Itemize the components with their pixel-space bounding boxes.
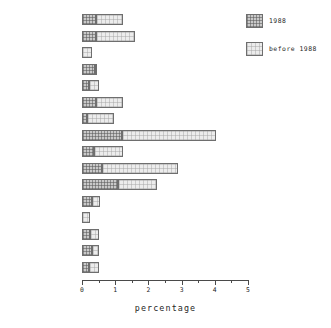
stacked-bar [82,80,99,91]
stacked-bar [82,212,90,223]
x-tick-label: 4 [206,286,224,295]
stacked-bar [82,245,99,256]
bar-segment-recent [82,229,90,240]
bar-segment-recent [82,196,92,207]
stacked-bar [82,113,114,124]
bar-segment-recent [82,146,94,157]
x-tick-minor [231,280,232,283]
x-tick-label: 3 [173,286,191,295]
bar-segment-recent [82,64,95,75]
stacked-bar [82,229,99,240]
stacked-bar [82,163,178,174]
bar-segment-recent [82,97,96,108]
x-tick-major [215,280,216,285]
stacked-bar [82,130,216,141]
bar-segment-recent [82,80,89,91]
bar-segment-older [122,130,217,141]
bar-chart: TOTALEUROPEENGLAND & WALESSCOTLANDN. IRE… [0,0,331,328]
plot-area: TOTALEUROPEENGLAND & WALESSCOTLANDN. IRE… [82,14,248,278]
bar-segment-older [94,146,124,157]
bar-segment-older [87,113,114,124]
stacked-bar [82,146,123,157]
x-tick-minor [99,280,100,283]
stacked-bar [82,262,99,273]
x-tick-minor [198,280,199,283]
x-tick-label: 2 [139,286,157,295]
stacked-bar [82,14,123,25]
bar-segment-recent [82,163,102,174]
bar-segment-older [90,229,98,240]
bar-segment-older [82,212,90,223]
x-tick-major [248,280,249,285]
bar-segment-older [95,64,97,75]
bar-segment-recent [82,179,118,190]
bar-segment-older [118,179,157,190]
bar-segment-older [96,14,124,25]
legend-label-older: before 1988 [269,45,317,53]
bar-segment-older [89,262,99,273]
x-tick-major [148,280,149,285]
legend-swatch-older-icon [246,42,263,56]
stacked-bar [82,47,92,58]
bar-segment-older [89,80,99,91]
x-tick-label: 5 [239,286,257,295]
legend-label-recent: 1988 [269,17,286,25]
x-axis-title: percentage [82,303,249,313]
bar-segment-older [102,163,178,174]
bar-segment-older [96,97,124,108]
bar-segment-older [82,47,92,58]
x-tick-minor [132,280,133,283]
bar-segment-older [92,196,100,207]
stacked-bar [82,196,100,207]
stacked-bar [82,31,135,42]
x-tick-major [82,280,83,285]
bar-segment-older [96,31,135,42]
x-tick-label: 0 [73,286,91,295]
stacked-bar [82,64,97,75]
bar-segment-older [92,245,99,256]
stacked-bar [82,97,123,108]
bar-segment-recent [82,14,96,25]
legend-swatch-recent-icon [246,14,263,28]
bar-segment-recent [82,31,96,42]
x-tick-major [115,280,116,285]
bar-segment-recent [82,262,89,273]
stacked-bar [82,179,157,190]
x-tick-major [182,280,183,285]
bar-segment-recent [82,245,92,256]
x-tick-label: 1 [106,286,124,295]
bar-segment-recent [82,130,122,141]
x-tick-minor [165,280,166,283]
